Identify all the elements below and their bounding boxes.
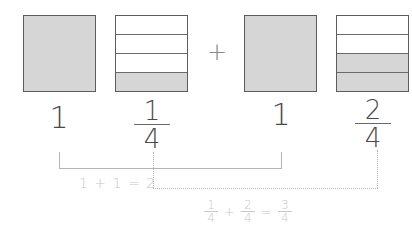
label-whole-1: 1: [44, 103, 74, 133]
wholes-bracket-right: [281, 152, 282, 169]
caption-fraction-b: 2 4: [241, 199, 255, 224]
denominator: 4: [281, 212, 289, 224]
fractions-bracket-bottom: [153, 188, 378, 189]
quarter-part-4-shaded: [116, 73, 187, 91]
quarter-part-2: [116, 35, 187, 54]
quarter-part-4-shaded: [337, 73, 408, 91]
numerator: 2: [244, 199, 252, 211]
quarter-part-2: [337, 35, 408, 54]
caption-equals: =: [261, 205, 272, 218]
label-whole-2: 1: [266, 100, 296, 130]
quarter-part-1: [116, 16, 187, 35]
fraction-numerator: 2: [355, 98, 391, 122]
fractions-bracket-right: [377, 150, 378, 188]
label-fraction-one-quarter: 1 4: [134, 99, 170, 151]
denominator: 4: [207, 212, 215, 224]
caption-plus: +: [224, 205, 235, 218]
caption-fractions-sum: 1 4 + 2 4 = 3 4: [204, 199, 292, 224]
label-fraction-two-quarters: 2 4: [355, 98, 391, 150]
quarter-part-1: [337, 16, 408, 35]
numerator: 3: [281, 199, 289, 211]
wholes-bracket-bottom: [59, 168, 282, 169]
quarter-square-one-shaded: [115, 15, 188, 92]
caption-wholes-sum: 1 + 1 = 2: [79, 175, 156, 191]
quarter-part-3-shaded: [337, 54, 408, 73]
caption-fraction-a: 1 4: [204, 199, 218, 224]
quarter-square-two-shaded: [336, 15, 409, 92]
fraction-denominator: 4: [355, 126, 391, 150]
wholes-bracket-left: [59, 152, 60, 169]
whole-square-2: [244, 15, 317, 92]
plus-sign: +: [207, 40, 227, 64]
denominator: 4: [244, 212, 252, 224]
caption-fraction-result: 3 4: [278, 199, 292, 224]
fraction-denominator: 4: [134, 127, 170, 151]
quarter-part-3: [116, 54, 187, 73]
fraction-numerator: 1: [134, 99, 170, 123]
whole-square-1: [23, 15, 96, 92]
numerator: 1: [207, 199, 215, 211]
